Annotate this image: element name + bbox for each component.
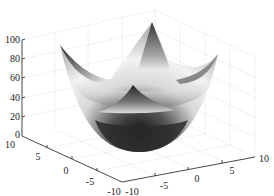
z-tick-label: 40 [10, 92, 20, 103]
y-tick-label: 10 [5, 139, 15, 150]
y-tick-label: -10 [107, 186, 120, 196]
x-tick-label: 0 [195, 173, 200, 184]
x-tick-label: -10 [125, 186, 138, 196]
x-tick-label: -5 [160, 180, 168, 191]
paraboloid-surface [60, 22, 218, 152]
y-tick-label: 5 [36, 151, 41, 162]
surface-plot: 100 80 60 40 20 0 10 5 0 -5 -10 -10 -5 0… [0, 0, 274, 196]
x-tick-label: 10 [259, 153, 269, 164]
x-tick-label: 5 [230, 165, 235, 176]
z-tick-labels: 100 80 60 40 20 0 [5, 34, 20, 140]
x-axis [122, 157, 255, 182]
z-tick-label: 60 [10, 72, 20, 83]
z-tick-label: 20 [10, 111, 20, 122]
y-tick-labels: 10 5 0 -5 -10 [5, 139, 121, 196]
y-tick-label: -5 [86, 176, 94, 187]
z-tick-label: 0 [15, 129, 20, 140]
z-tick-label: 80 [10, 53, 20, 64]
y-tick-label: 0 [64, 165, 69, 176]
x-tick-labels: -10 -5 0 5 10 [125, 153, 269, 196]
z-tick-label: 100 [5, 34, 20, 45]
